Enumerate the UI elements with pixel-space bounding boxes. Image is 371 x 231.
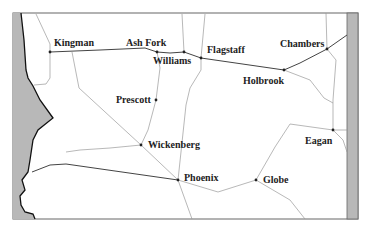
city-dot-kingman: [49, 51, 52, 54]
city-label-eagan: Eagan: [305, 136, 332, 146]
city-dot-prescott: [155, 99, 158, 102]
city-label-globe: Globe: [263, 175, 289, 185]
city-label-holbrook: Holbrook: [243, 76, 284, 86]
city-label-chambers: Chambers: [280, 39, 324, 49]
road-map: [0, 0, 371, 231]
city-label-prescott: Prescott: [116, 95, 151, 105]
city-dot-globe: [255, 179, 258, 182]
state-border-east-shading: [347, 13, 358, 219]
city-dot-flagstaff: [200, 57, 203, 60]
city-label-wickenberg: Wickenberg: [148, 140, 200, 150]
city-label-kingman: Kingman: [54, 38, 94, 48]
city-dot-wickenberg: [140, 144, 143, 147]
city-label-flagstaff: Flagstaff: [207, 45, 245, 55]
city-dot-ash-fork: [156, 51, 159, 54]
city-dot-holbrook: [283, 69, 286, 72]
city-dot-eagan: [332, 129, 335, 132]
city-dot-williams: [183, 51, 186, 54]
city-label-williams: Williams: [153, 56, 191, 66]
city-dot-chambers: [326, 48, 329, 51]
city-label-phoenix: Phoenix: [184, 173, 218, 183]
city-dot-phoenix: [177, 179, 180, 182]
city-label-ash-fork: Ash Fork: [126, 38, 166, 48]
